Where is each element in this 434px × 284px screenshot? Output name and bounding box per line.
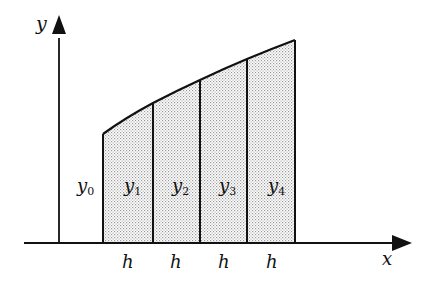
trapezoid-diagram: y x y0 y1 y2 y3 y4 h h h h [0,0,434,284]
strip-width-label-2: h [170,251,182,272]
x-axis-arrow-icon [392,235,412,251]
x-axis-label: x [382,248,392,269]
y-axis-label: y [35,12,47,34]
strip-width-label-4: h [266,251,278,272]
y-axis-arrow-icon [52,15,66,34]
ordinate-label-y0: y0 [76,175,94,198]
strip-width-label-1: h [122,251,134,272]
strip-width-label-3: h [218,251,230,272]
